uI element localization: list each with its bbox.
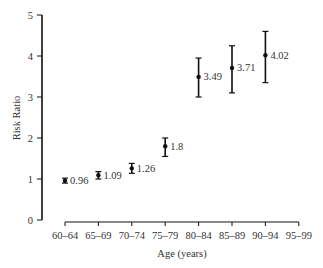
x-tick-label: 70–74 — [119, 230, 146, 241]
data-point-marker — [96, 173, 100, 177]
x-tick-label: 75–79 — [152, 230, 178, 241]
value-label: 3.49 — [204, 71, 222, 82]
data-point-marker — [63, 178, 67, 182]
y-tick-label: 0 — [28, 215, 33, 226]
data-point-group: 0.96 — [62, 175, 88, 186]
value-label: 3.71 — [237, 62, 255, 73]
data-points: 0.961.091.261.83.493.714.02 — [62, 31, 289, 186]
data-point-group: 4.02 — [262, 31, 288, 82]
y-tick-label: 3 — [28, 92, 33, 103]
data-point-marker — [230, 66, 234, 70]
value-label: 4.02 — [270, 50, 288, 61]
x-tick-label: 95–99 — [286, 230, 312, 241]
data-point-marker — [263, 53, 267, 57]
value-label: 0.96 — [70, 175, 88, 186]
y-tick-label: 4 — [28, 51, 34, 62]
y-axis-title: Risk Ratio — [11, 96, 22, 141]
data-point-group: 1.09 — [95, 170, 121, 181]
x-tick-label: 80–84 — [185, 230, 212, 241]
value-label: 1.26 — [137, 163, 155, 174]
x-axis: 60–6465–6970–7475–7980–8485–8990–9495–99 — [52, 222, 312, 241]
value-label: 1.09 — [103, 170, 121, 181]
x-axis-title: Age (years) — [157, 248, 207, 260]
value-label: 1.8 — [170, 141, 183, 152]
y-tick-label: 2 — [28, 133, 33, 144]
data-point-marker — [163, 144, 167, 148]
data-point-group: 3.71 — [229, 46, 255, 93]
data-point-group: 1.26 — [129, 163, 155, 174]
data-point-marker — [196, 75, 200, 79]
data-point-group: 3.49 — [196, 58, 222, 97]
x-tick-label: 65–69 — [85, 230, 111, 241]
x-tick-label: 90–94 — [252, 230, 279, 241]
data-point-group: 1.8 — [162, 138, 183, 156]
x-tick-label: 85–89 — [219, 230, 245, 241]
y-tick-label: 5 — [28, 10, 33, 21]
y-axis: 012345 — [28, 10, 42, 226]
risk-ratio-chart: 012345 60–6465–6970–7475–7980–8485–8990–… — [0, 0, 323, 268]
data-point-marker — [130, 166, 134, 170]
x-tick-label: 60–64 — [52, 230, 79, 241]
y-tick-label: 1 — [28, 174, 33, 185]
